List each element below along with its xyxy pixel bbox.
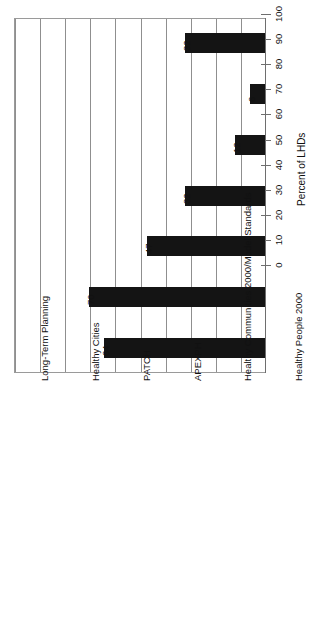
bar-value-label: 32 [182, 193, 192, 204]
value-axis-title: Percent of LHDs [296, 133, 307, 206]
axis-tick [261, 215, 271, 216]
bar-value-label: 70 [86, 294, 96, 305]
category-label: Healthy Communities 2000/Model Standards [242, 192, 253, 381]
gridline [166, 19, 167, 372]
bar [104, 338, 265, 358]
category-label: Long-Term Planning [39, 296, 50, 381]
bar-value-label: 32 [182, 41, 192, 52]
category-label: PATCH [141, 350, 152, 381]
bar-value-label: 64 [101, 345, 111, 356]
category-label: Healthy Cities [90, 322, 101, 381]
axis-tick [261, 64, 271, 65]
category-label: APEXPH [192, 342, 203, 381]
axis-tick-label: 100 [274, 0, 284, 34]
axis-tick [261, 265, 271, 266]
bar-chart-figure: 0102030405060708090100 3261232477064 Per… [0, 0, 319, 630]
value-axis-spine [265, 18, 266, 373]
bar-value-label: 47 [144, 244, 154, 255]
gridline [90, 19, 91, 372]
gridline [141, 19, 142, 372]
category-label: Healthy People 2000 [293, 293, 304, 381]
bar [185, 33, 265, 53]
axis-tick [261, 114, 271, 115]
axis-tick [261, 14, 271, 15]
gridline [115, 19, 116, 372]
bar-value-label: 12 [232, 142, 242, 153]
bar-value-label: 6 [247, 97, 257, 102]
gridline [15, 19, 16, 372]
bar [89, 287, 265, 307]
gridline [65, 19, 66, 372]
axis-tick [261, 165, 271, 166]
